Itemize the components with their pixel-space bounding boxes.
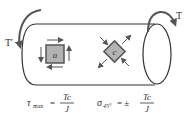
shaft-end-ellipse [143, 24, 171, 84]
shaft [22, 24, 171, 85]
formula-shear-subscript: max [33, 103, 43, 109]
formula-shear-denominator: J [65, 104, 70, 114]
stress-arrow-br-icon [122, 59, 129, 66]
torsion-shaft-diagram: T' T a c τ max = Tc J σ 45° = ± [0, 0, 187, 117]
element-c-label: c [113, 47, 117, 57]
formula-normal-numerator: Tc [143, 92, 151, 102]
stress-element-c: c [99, 36, 130, 67]
stress-arrow-bl-icon [99, 59, 107, 67]
element-a-label: a [53, 50, 58, 60]
torque-right-label: T [176, 10, 182, 21]
stress-arrow-tr-icon [122, 36, 130, 44]
stress-element-a: a [41, 40, 69, 67]
formula-shear-equals: = [50, 98, 55, 108]
formula-normal-stress: σ 45° = ± Tc J [97, 92, 154, 114]
formula-shear-numerator: Tc [63, 92, 71, 102]
formula-normal-denominator: J [145, 104, 150, 114]
formula-shear-stress: τ max = Tc J [27, 92, 74, 114]
formula-normal-equals: = ± [117, 98, 129, 108]
shaft-outline [22, 24, 155, 85]
formula-normal-subscript: 45° [103, 103, 112, 109]
torque-left-label: T' [5, 37, 13, 48]
stress-arrow-tl-icon [100, 37, 107, 44]
formula-shear-symbol: τ [27, 97, 31, 108]
